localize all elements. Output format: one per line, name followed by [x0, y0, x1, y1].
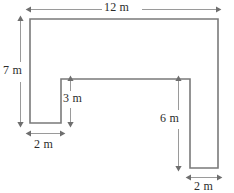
dimension-label-right-leg-6m: 6 m: [160, 112, 179, 125]
dimension-label-left-7m: 7 m: [3, 64, 22, 77]
figure-canvas: [0, 0, 234, 193]
dimension-label-left-leg-2m: 2 m: [34, 138, 53, 151]
geometry-figure: 12 m 7 m 3 m 2 m 6 m 2 m: [0, 0, 234, 193]
shape-outline: [30, 19, 218, 168]
dimension-label-top-12m: 12 m: [104, 1, 129, 14]
dimension-label-notch-3m: 3 m: [63, 92, 82, 105]
dimension-label-right-leg-2m: 2 m: [194, 180, 213, 193]
